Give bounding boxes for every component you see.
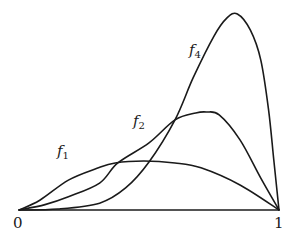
curve-label-f1: f1 (57, 144, 69, 161)
x-tick-label-1: 1 (274, 216, 284, 231)
curve-f4 (19, 13, 279, 210)
chart-svg (0, 0, 296, 235)
curve-label-f4: f4 (189, 43, 201, 60)
x-tick-label-0: 0 (13, 216, 23, 231)
curve-f1 (19, 161, 279, 210)
curve-label-f2-subscript: 2 (139, 120, 145, 131)
curve-label-f2: f2 (133, 114, 145, 131)
curve-label-f4-subscript: 4 (195, 49, 201, 60)
curve-label-f1-subscript: 1 (63, 150, 69, 161)
chart-figure: 0 1 f1 f2 f4 (0, 0, 296, 235)
